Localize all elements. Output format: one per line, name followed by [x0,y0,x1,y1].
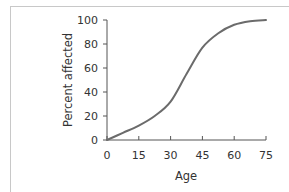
axes [103,20,266,140]
y-tick-label: 100 [77,14,98,27]
y-tick-label: 80 [84,38,98,51]
y-tick-label: 40 [84,86,98,99]
x-tick-label: 30 [164,149,178,162]
x-tick-label: 45 [195,149,209,162]
x-tick-label: 60 [227,149,241,162]
data-line [107,20,266,140]
y-axis-title: Percent affected [61,33,75,127]
x-tick-label: 15 [132,149,146,162]
y-tick-label: 20 [84,110,98,123]
y-tick-label: 60 [84,62,98,75]
x-axis-title: Age [175,169,197,183]
x-tick-label: 0 [104,149,111,162]
x-tick-label: 75 [259,149,273,162]
line-chart: 01530456075020406080100 Age Percent affe… [0,0,289,192]
y-tick-label: 0 [91,134,98,147]
